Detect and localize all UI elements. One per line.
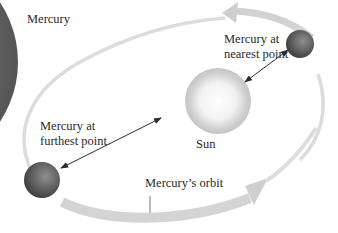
sun <box>185 68 251 134</box>
mercury-nearest <box>286 30 314 58</box>
furthest-point-label: Mercury at furthest point <box>40 119 107 149</box>
furthest-label-line1: Mercury at <box>40 119 107 134</box>
mercury-title-label: Mercury <box>27 12 70 27</box>
orbit-label: Mercury’s orbit <box>145 176 223 191</box>
nearest-label-line2: nearest point <box>224 47 288 62</box>
furthest-label-line2: furthest point <box>40 134 107 149</box>
mercury-surface-edge <box>0 0 18 170</box>
mercury-orbit-diagram: Mercury Mercury at nearest point Mercury… <box>0 0 338 233</box>
nearest-point-label: Mercury at nearest point <box>224 32 288 62</box>
mercury-furthest <box>24 162 60 198</box>
sun-label: Sun <box>196 137 215 152</box>
nearest-label-line1: Mercury at <box>224 32 288 47</box>
